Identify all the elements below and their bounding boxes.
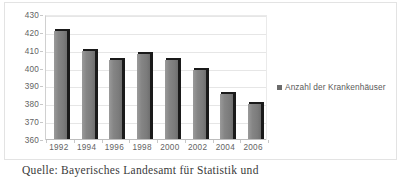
y-tick-label: 390 [25, 82, 39, 91]
hospital-count-bar-chart: 360370380390400410420430 199219941996199… [0, 0, 403, 176]
bar [193, 70, 206, 140]
y-tick-mark [40, 122, 43, 123]
bar-shadow-top [166, 58, 181, 60]
legend-square-marker [277, 85, 282, 90]
y-tick-mark [40, 104, 43, 105]
chart-frame: 360370380390400410420430 199219941996199… [4, 2, 397, 160]
bar-slot [102, 16, 130, 140]
plot-area [45, 15, 267, 140]
bar-shadow-top [249, 102, 264, 104]
x-tick-label: 2004 [216, 143, 235, 153]
bar-shadow-top [83, 49, 98, 51]
bar-shadow-top [138, 52, 153, 54]
bar-slot [213, 16, 241, 140]
bar-shadow-top [110, 58, 125, 60]
bar [137, 54, 150, 140]
y-tick-mark [40, 15, 43, 16]
bar-shadow-top [194, 68, 209, 70]
y-tick-mark [40, 51, 43, 52]
y-axis: 360370380390400410420430 [5, 15, 43, 140]
x-tick-mark [268, 140, 269, 143]
bars-layer [46, 16, 266, 140]
bar [54, 31, 67, 140]
bar-slot [157, 16, 185, 140]
x-tick-label: 2000 [160, 143, 179, 153]
y-tick-label: 420 [25, 28, 39, 37]
bar [82, 51, 95, 140]
x-tick-label: 1992 [49, 143, 68, 153]
y-tick-label: 410 [25, 46, 39, 55]
y-tick-label: 380 [25, 100, 39, 109]
source-caption: Quelle: Bayerisches Landesamt für Statis… [22, 164, 259, 176]
y-tick-label: 400 [25, 64, 39, 73]
x-axis-line [46, 139, 266, 140]
y-tick-label: 430 [25, 11, 39, 20]
chart-legend: Anzahl der Krankenhäuser [277, 82, 386, 92]
bar [165, 60, 178, 140]
y-tick-mark [40, 86, 43, 87]
y-tick-label: 360 [25, 136, 39, 145]
x-tick-label: 1994 [77, 143, 96, 153]
bar-shadow [261, 102, 264, 140]
bar-shadow-top [55, 29, 70, 31]
bar-shadow [150, 52, 153, 140]
bar-shadow [122, 58, 125, 140]
x-tick-label: 1996 [105, 143, 124, 153]
bar-slot [185, 16, 213, 140]
bar [248, 104, 261, 140]
y-tick-mark [40, 33, 43, 34]
bar-slot [74, 16, 102, 140]
x-tick-label: 1998 [133, 143, 152, 153]
bar-slot [240, 16, 268, 140]
y-tick-mark [40, 140, 43, 141]
legend-label: Anzahl der Krankenhäuser [285, 82, 386, 92]
y-tick-label: 370 [25, 118, 39, 127]
bar-shadow [206, 68, 209, 140]
x-tick-label: 2006 [244, 143, 263, 153]
bar-shadow [95, 49, 98, 140]
bar-shadow-top [221, 92, 236, 94]
bar-shadow [233, 92, 236, 140]
bar-shadow [178, 58, 181, 140]
y-tick-mark [40, 69, 43, 70]
bar [109, 60, 122, 140]
bar-slot [129, 16, 157, 140]
bar [220, 94, 233, 140]
bar-slot [46, 16, 74, 140]
x-axis: 19921994199619982000200220042006 [45, 143, 267, 157]
x-tick-label: 2002 [188, 143, 207, 153]
bar-shadow [67, 29, 70, 140]
